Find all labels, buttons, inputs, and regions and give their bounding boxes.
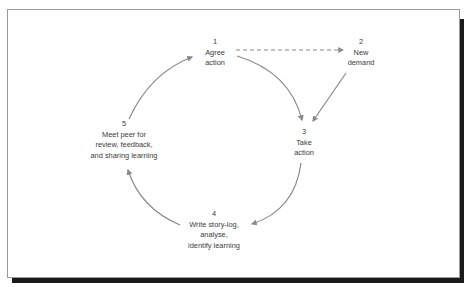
node-1-agree-action: 1 Agree action <box>205 37 225 69</box>
node-label-line: Take <box>294 138 314 149</box>
node-number: 3 <box>294 127 314 138</box>
node-2-new-demand: 2 New demand <box>348 37 375 69</box>
node-label-line: identify learning <box>188 241 240 252</box>
arrow-5-to-1 <box>129 57 192 119</box>
node-5-meet-peer: 5 Meet peer for review, feedback, and sh… <box>91 119 158 161</box>
arrow-4-to-5 <box>128 170 180 225</box>
node-number: 4 <box>188 209 240 220</box>
node-label-line: review, feedback, <box>91 140 158 151</box>
node-label-line: New <box>348 48 375 59</box>
node-label-line: analyse, <box>188 230 240 241</box>
arrow-1-to-3 <box>237 56 302 120</box>
arrow-2-to-3 <box>313 73 346 121</box>
node-label-line: demand <box>348 58 375 69</box>
node-label-line: Write story-log, <box>188 220 240 231</box>
arrow-3-to-4 <box>252 163 301 224</box>
node-3-take-action: 3 Take action <box>294 127 314 159</box>
node-label-line: and sharing learning <box>91 151 158 162</box>
node-label-line: action <box>205 58 225 69</box>
node-4-write-story-log: 4 Write story-log, analyse, identify lea… <box>188 209 240 251</box>
node-number: 1 <box>205 37 225 48</box>
node-number: 2 <box>348 37 375 48</box>
node-number: 5 <box>91 119 158 130</box>
node-label-line: action <box>294 148 314 159</box>
node-label-line: Meet peer for <box>91 130 158 141</box>
node-label-line: Agree <box>205 48 225 59</box>
